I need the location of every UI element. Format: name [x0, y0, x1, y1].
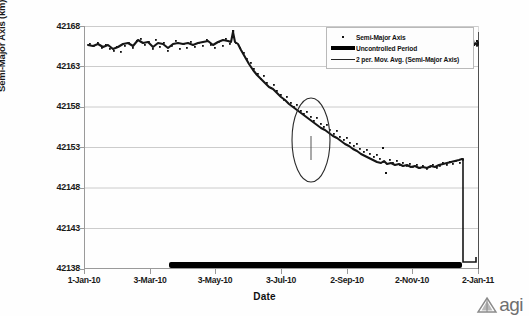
y-tick-label: 42153 [34, 142, 80, 152]
x-axis-title: Date [0, 291, 529, 302]
legend-label: Uncontrolled Period [356, 45, 417, 52]
y-tick-label: 42143 [34, 223, 80, 233]
agi-logo: agi [476, 295, 523, 314]
x-tick-label: 3-Mar-10 [115, 275, 185, 285]
x-tick-mark [347, 269, 348, 274]
uncontrolled-period-bar [169, 262, 462, 268]
legend-item-semi-major-axis: Semi-Major Axis [330, 32, 469, 42]
x-tick-label: 3-Jul-10 [246, 275, 316, 285]
x-tick-mark [281, 269, 282, 274]
chart-legend: Semi-Major Axis Uncontrolled Period 2 pe… [326, 27, 474, 69]
x-tick-label: 2-Nov-10 [377, 275, 447, 285]
x-tick-mark [478, 269, 479, 274]
x-tick-mark [215, 269, 216, 274]
y-tick-label: 42158 [34, 101, 80, 111]
y-tick-label: 42138 [34, 263, 80, 273]
legend-label: Semi-Major Axis [356, 34, 406, 41]
x-tick-label: 2-Jan-11 [443, 275, 513, 285]
y-tick-label: 42148 [34, 182, 80, 192]
x-tick-label: 2-Sep-10 [312, 275, 382, 285]
legend-item-uncontrolled-period: Uncontrolled Period [330, 43, 469, 53]
y-axis-ticks: 42168 42163 42158 42153 42148 42143 4213… [30, 0, 80, 316]
x-tick-label: 1-Jan-10 [49, 275, 119, 285]
y-axis-title: Semi-Major Axis (km) [0, 0, 7, 92]
x-tick-mark [150, 269, 151, 274]
chart-container: Semi-Major Axis (km) 42168 42163 42158 4… [0, 0, 529, 316]
triangle-icon [476, 296, 498, 314]
y-tick-label: 42168 [34, 21, 80, 31]
x-tick-label: 3-May-10 [180, 275, 250, 285]
legend-marker-line-icon [330, 54, 356, 64]
legend-marker-dot-icon [330, 32, 356, 42]
legend-marker-bar-icon [330, 43, 356, 53]
legend-item-moving-average: 2 per. Mov. Avg. (Semi-Major Axis) [330, 54, 469, 64]
legend-label: 2 per. Mov. Avg. (Semi-Major Axis) [356, 56, 459, 63]
x-tick-mark [84, 269, 85, 274]
y-tick-label: 42163 [34, 61, 80, 71]
agi-logo-text: agi [499, 295, 523, 314]
x-tick-mark [412, 269, 413, 274]
dropout-segment [463, 159, 476, 262]
